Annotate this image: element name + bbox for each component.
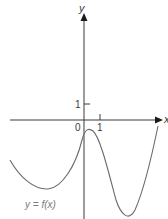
- y-axis-arrow-icon: [81, 13, 88, 21]
- y-tick-label: 1: [75, 99, 81, 110]
- origin-label: 0: [75, 122, 81, 133]
- x-axis-label: x: [163, 113, 168, 125]
- x-tick-label: 1: [97, 122, 103, 133]
- curve-label: y = f(x): [24, 199, 56, 210]
- function-graph: y x 1 1 0 y = f(x): [0, 0, 168, 219]
- y-axis-label: y: [78, 2, 86, 14]
- x-axis-arrow-icon: [155, 117, 163, 124]
